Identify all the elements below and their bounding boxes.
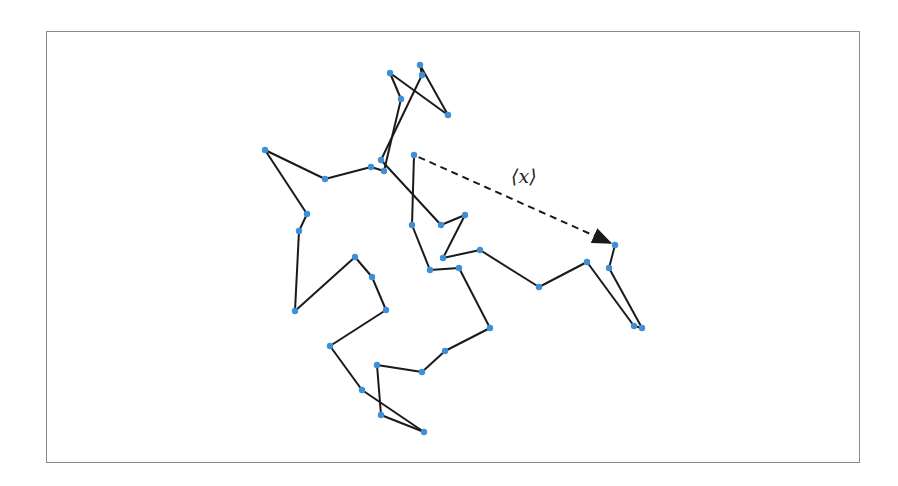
path-node (536, 284, 542, 290)
path-node (374, 362, 380, 368)
path-edge (420, 65, 448, 115)
path-edge (362, 390, 424, 432)
mean-displacement-label: ⟨x⟩ (511, 165, 537, 187)
path-node (327, 343, 333, 349)
path-node (378, 157, 384, 163)
path-edge (355, 257, 372, 277)
path-edge (330, 310, 386, 346)
path-nodes (262, 62, 645, 435)
path-node (584, 259, 590, 265)
path-node (262, 147, 268, 153)
path-edge (377, 365, 381, 415)
path-node (438, 222, 444, 228)
path-node (292, 308, 298, 314)
path-node (411, 152, 417, 158)
path-node (487, 325, 493, 331)
path-node (378, 412, 384, 418)
path-edge (443, 215, 465, 258)
path-node (304, 211, 310, 217)
path-edge (381, 75, 422, 160)
path-node (387, 70, 393, 76)
path-node (442, 348, 448, 354)
path-node (383, 307, 389, 313)
path-node (462, 212, 468, 218)
path-node (369, 274, 375, 280)
path-edge (609, 245, 615, 268)
path-edge (325, 167, 371, 179)
path-node (421, 429, 427, 435)
path-edge (412, 155, 414, 225)
path-node (352, 254, 358, 260)
path-node (359, 387, 365, 393)
path-node (417, 62, 423, 68)
path-node (606, 265, 612, 271)
random-walk-diagram: ⟨x⟩ (0, 0, 898, 486)
path-edge (295, 257, 355, 311)
path-edge (539, 262, 587, 287)
path-edge (443, 250, 480, 258)
path-node (398, 96, 404, 102)
path-node (419, 72, 425, 78)
path-node (477, 247, 483, 253)
path-node (445, 112, 451, 118)
path-edge (377, 365, 422, 372)
path-edge (381, 160, 441, 225)
path-edge (412, 225, 430, 270)
path-edge (372, 277, 386, 310)
path-edges (265, 65, 642, 432)
path-node (296, 228, 302, 234)
path-node (409, 222, 415, 228)
path-node (419, 369, 425, 375)
path-node (456, 265, 462, 271)
path-node (631, 323, 637, 329)
path-node (639, 325, 645, 331)
path-edge (295, 231, 299, 311)
path-node (612, 242, 618, 248)
path-node (440, 255, 446, 261)
path-node (322, 176, 328, 182)
path-edge (422, 351, 445, 372)
path-edge (459, 268, 490, 328)
path-edge (330, 346, 362, 390)
path-node (381, 168, 387, 174)
path-edge (430, 268, 459, 270)
path-node (368, 164, 374, 170)
path-edge (445, 328, 490, 351)
path-edge (480, 250, 539, 287)
path-node (427, 267, 433, 273)
